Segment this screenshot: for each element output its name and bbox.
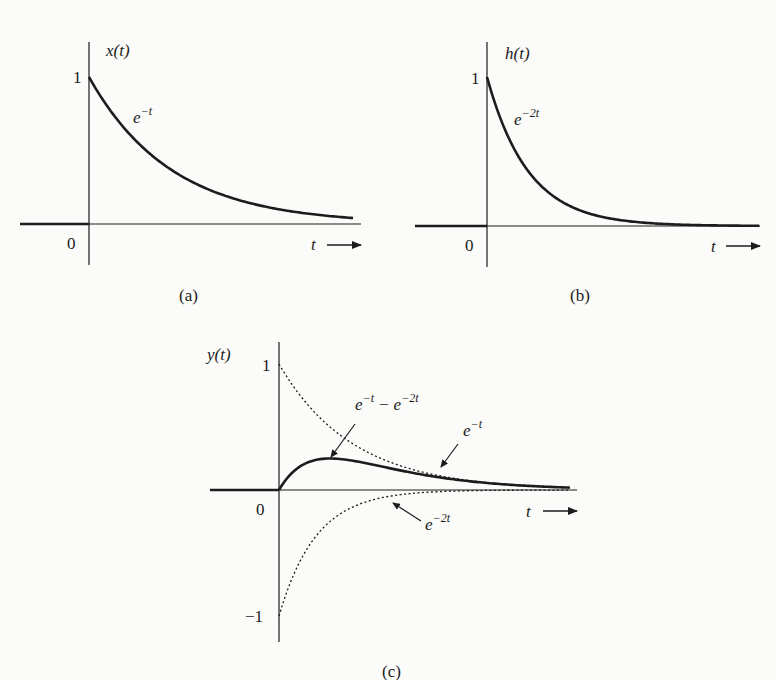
panel-c-difference-arrow: [331, 424, 355, 457]
panel-c-dotted-exp-t: [279, 364, 570, 488]
panel-a-ylabel: x(t): [105, 41, 130, 60]
panel-a-curve-label: e−t: [133, 104, 153, 127]
panel-c: y(t) 1 −1 0 e−t−e−2t e−t e−2t t (c): [205, 342, 577, 680]
panel-c-exp-2t-arrow: [393, 503, 421, 521]
panel-c-ytick-1: 1: [262, 356, 271, 375]
panel-c-origin-label: 0: [256, 500, 265, 519]
panel-c-ylabel: y(t): [205, 345, 231, 364]
panel-b: h(t) 1 0 e−2t t (b): [415, 42, 760, 305]
panel-a-curve: [89, 77, 353, 218]
panel-b-curve: [487, 77, 759, 226]
panel-b-ylabel: h(t): [505, 44, 530, 63]
panel-a-xlabel: t: [311, 235, 317, 254]
panel-c-ytick-neg1: −1: [245, 607, 263, 626]
panel-c-xlabel: t: [526, 502, 532, 521]
panel-a: x(t) 1 0 e−t t (a): [20, 41, 361, 305]
panel-b-ytick-1: 1: [471, 69, 480, 88]
panel-a-ytick-1: 1: [73, 68, 82, 87]
panel-b-origin-label: 0: [465, 236, 474, 255]
panel-b-curve-label: e−2t: [514, 106, 540, 129]
panel-c-exp-t-label: e−t: [463, 417, 483, 440]
panel-c-difference-label: e−t−e−2t: [355, 391, 419, 414]
panel-a-origin-label: 0: [67, 234, 76, 253]
panel-b-xlabel: t: [711, 237, 717, 256]
panel-c-caption: (c): [382, 662, 401, 680]
panel-c-curve-difference: [279, 459, 570, 491]
panel-b-caption: (b): [570, 286, 590, 305]
figure: x(t) 1 0 e−t t (a) h(t) 1 0 e−2t t (b) y…: [0, 0, 776, 680]
panel-c-exp-t-arrow: [441, 444, 458, 467]
panel-c-exp-2t-label: e−2t: [425, 511, 451, 534]
panel-a-caption: (a): [179, 286, 198, 305]
